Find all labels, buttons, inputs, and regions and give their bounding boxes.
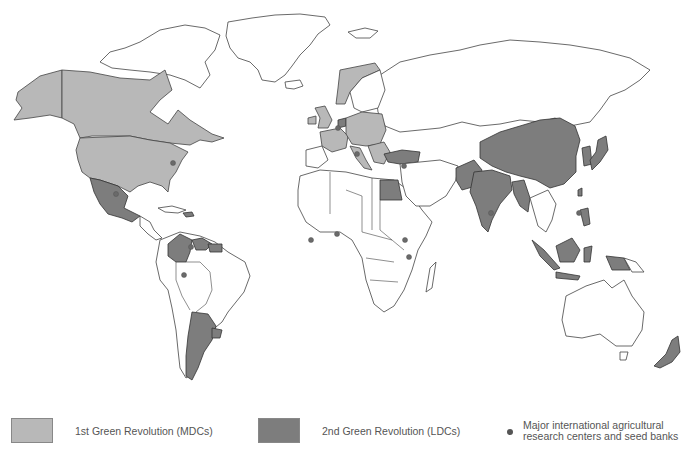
uruguay xyxy=(212,328,222,338)
research-center-dot xyxy=(355,152,360,157)
greenland xyxy=(226,14,330,82)
ldc-swatch xyxy=(258,418,300,443)
java xyxy=(556,272,580,280)
sumatra xyxy=(532,240,560,270)
research-center-dot xyxy=(407,255,412,260)
guyana xyxy=(208,244,222,252)
argentina xyxy=(186,312,216,380)
legend-line-1: Major international agricultural xyxy=(523,420,678,431)
japan xyxy=(590,136,608,170)
world-map xyxy=(0,0,699,405)
research-center-dot xyxy=(335,232,340,237)
central-america xyxy=(140,216,162,240)
philippines xyxy=(580,208,590,226)
australia xyxy=(562,280,644,346)
india xyxy=(470,170,512,232)
iceland xyxy=(285,80,303,89)
research-center-dot xyxy=(309,238,314,243)
bangladesh-myanmar xyxy=(512,180,530,212)
arabia-iran xyxy=(400,160,458,206)
tasmania xyxy=(620,352,628,360)
southeast-asia xyxy=(530,190,556,232)
uk xyxy=(315,106,332,128)
caribbean-islands xyxy=(183,212,194,217)
madagascar xyxy=(426,262,436,292)
research-center-dot xyxy=(336,126,341,131)
research-center-dot xyxy=(182,273,187,278)
research-center-dot xyxy=(171,161,176,166)
new-zealand xyxy=(654,336,680,368)
svalbard xyxy=(348,28,378,38)
egypt xyxy=(380,180,402,200)
sulawesi xyxy=(584,246,592,262)
legend-label-research-centers: Major international agricultural researc… xyxy=(523,420,678,442)
legend-label-mdc: 1st Green Revolution (MDCs) xyxy=(75,425,213,437)
research-center-dot xyxy=(402,164,407,169)
legend-item-mdc: 1st Green Revolution (MDCs) xyxy=(11,410,213,451)
ireland xyxy=(308,116,316,124)
legend-line-2: research centers and seed banks xyxy=(523,431,678,442)
iberia xyxy=(306,146,328,168)
france xyxy=(320,128,348,152)
research-center-dot xyxy=(489,211,494,216)
map-legend: 1st Green Revolution (MDCs) 2nd Green Re… xyxy=(0,410,699,451)
legend-item-ldc: 2nd Green Revolution (LDCs) xyxy=(258,410,460,451)
legend-label-ldc: 2nd Green Revolution (LDCs) xyxy=(322,425,460,437)
research-center-dot xyxy=(577,211,582,216)
cuba xyxy=(158,206,186,213)
borneo xyxy=(556,238,580,262)
taiwan xyxy=(578,188,582,196)
research-center-dot xyxy=(189,245,194,250)
legend-item-research-centers: Major international agricultural researc… xyxy=(507,410,678,451)
italy xyxy=(350,146,372,170)
russia xyxy=(376,40,650,132)
research-center-dot xyxy=(403,238,408,243)
germany-central-europe xyxy=(346,112,386,146)
alaska xyxy=(14,70,62,120)
research-center-dot xyxy=(114,192,119,197)
research-center-dot-icon xyxy=(507,429,513,435)
mdc-swatch xyxy=(11,418,53,443)
